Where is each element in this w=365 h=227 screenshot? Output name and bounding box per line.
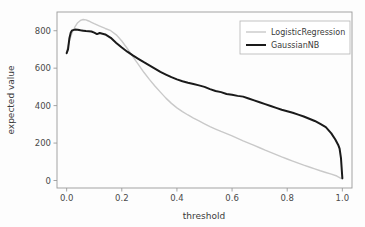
chart-legend: LogisticRegression GaussianNB xyxy=(240,21,350,54)
legend-label-gaussiannb: GaussianNB xyxy=(271,41,319,50)
chart-svg: 0.00.20.40.60.81.00200400600800 threshol… xyxy=(0,0,365,227)
y-tick-label: 600 xyxy=(35,63,51,73)
x-tick-label: 0.8 xyxy=(280,193,294,203)
x-tick-label: 1.0 xyxy=(336,193,350,203)
y-axis-title: expected value xyxy=(6,65,16,135)
chart-figure: 0.00.20.40.60.81.00200400600800 threshol… xyxy=(0,0,365,227)
legend-label-logisticregression: LogisticRegression xyxy=(271,28,345,37)
y-tick-label: 400 xyxy=(35,101,51,111)
x-tick-label: 0.0 xyxy=(60,193,74,203)
y-tick-label: 0 xyxy=(46,176,51,186)
x-axis-title: threshold xyxy=(183,211,225,221)
x-tick-label: 0.2 xyxy=(115,193,129,203)
y-tick-label: 200 xyxy=(35,138,51,148)
y-tick-label: 800 xyxy=(35,26,51,36)
x-tick-label: 0.6 xyxy=(225,193,239,203)
x-tick-label: 0.4 xyxy=(170,193,184,203)
